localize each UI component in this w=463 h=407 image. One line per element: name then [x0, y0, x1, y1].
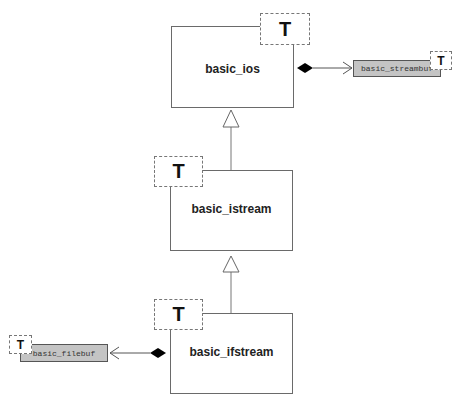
template-param-box: T	[9, 335, 32, 354]
composition-diamond-icon	[297, 63, 313, 73]
template-param-box: T	[430, 51, 452, 70]
inheritance-arrow-icon	[223, 110, 239, 127]
class-basic-streambuf: basic_streambuf	[353, 60, 441, 77]
template-param-box: T	[260, 13, 310, 45]
class-name: basic_istream	[171, 202, 292, 216]
template-param-box: T	[154, 299, 203, 330]
inheritance-arrow-icon	[223, 256, 239, 272]
class-name: basic_ifstream	[171, 345, 292, 359]
class-basic-filebuf: basic_filebuf	[20, 344, 108, 362]
composition-diamond-icon	[150, 348, 166, 358]
template-param-box: T	[154, 156, 203, 187]
class-name: basic_ios	[172, 62, 293, 76]
